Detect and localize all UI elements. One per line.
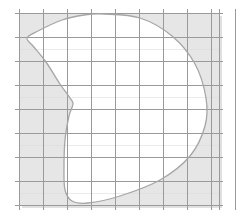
grid-region-diagram [0,0,244,223]
figure-container [0,0,244,223]
